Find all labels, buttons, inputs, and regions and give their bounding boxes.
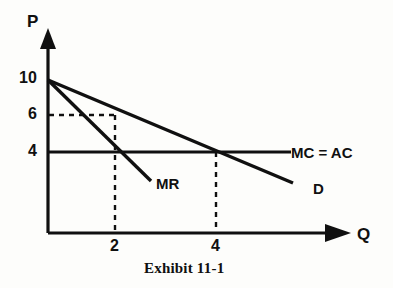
figure-caption: Exhibit 11-1 — [144, 260, 224, 277]
axis-group — [40, 28, 351, 242]
x-tick-label-4: 4 — [211, 238, 220, 254]
marginal-revenue-curve-label: MR — [156, 176, 179, 191]
exhibit-figure: P Q 10 6 4 2 4 MR D MC = AC Exhibit 11-1 — [0, 0, 393, 288]
demand-curve-label: D — [313, 181, 324, 196]
x-tick-label-2: 2 — [110, 238, 119, 254]
x-axis-label: Q — [357, 226, 370, 243]
y-axis-label: P — [27, 13, 38, 30]
curves-group — [48, 80, 293, 183]
y-tick-label-4: 4 — [28, 143, 37, 159]
marginal-revenue-curve — [48, 80, 151, 181]
demand-curve — [48, 80, 293, 183]
mc-ac-curve-label: MC = AC — [291, 145, 353, 160]
y-axis-arrowhead — [40, 28, 56, 49]
x-axis-arrowhead — [325, 224, 351, 242]
guide-lines-group — [49, 115, 216, 232]
y-tick-label-10: 10 — [19, 70, 37, 86]
y-tick-label-6: 6 — [28, 106, 37, 122]
